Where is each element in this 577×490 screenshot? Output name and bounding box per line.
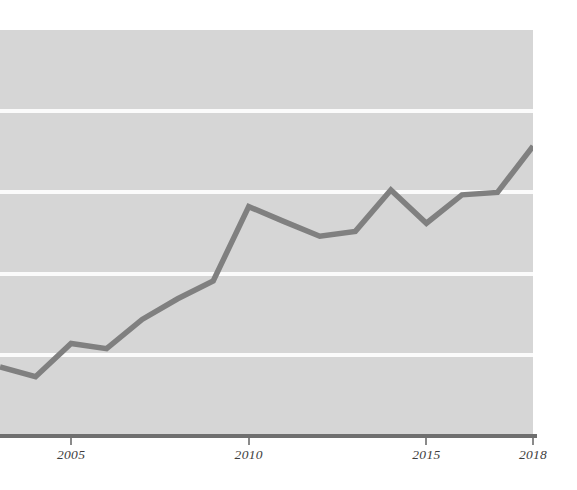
x-tick-label-2015: 2015	[412, 447, 440, 463]
x-tick-mark-2010	[248, 438, 250, 445]
line-chart: 2005 2010 2015 2018	[0, 0, 577, 490]
x-tick-label-2010: 2010	[235, 447, 263, 463]
series-line-group	[0, 30, 533, 436]
series-line-1	[0, 146, 533, 377]
x-tick-label-2018: 2018	[519, 447, 547, 463]
x-tick-label-2005: 2005	[57, 447, 85, 463]
x-tick-mark-2018	[532, 438, 534, 445]
x-tick-mark-2005	[70, 438, 72, 445]
x-tick-mark-2015	[425, 438, 427, 445]
plot-area	[0, 30, 533, 436]
x-axis-line	[0, 434, 537, 438]
